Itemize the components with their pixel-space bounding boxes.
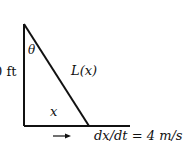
arrow-icon <box>65 134 71 139</box>
height-label: 0 ft <box>0 64 16 79</box>
base-label: x <box>50 104 57 119</box>
hypotenuse-label: L(x) <box>71 63 97 78</box>
rate-label: dx/dt = 4 m/s <box>94 128 183 143</box>
angle-label: θ <box>28 43 35 57</box>
